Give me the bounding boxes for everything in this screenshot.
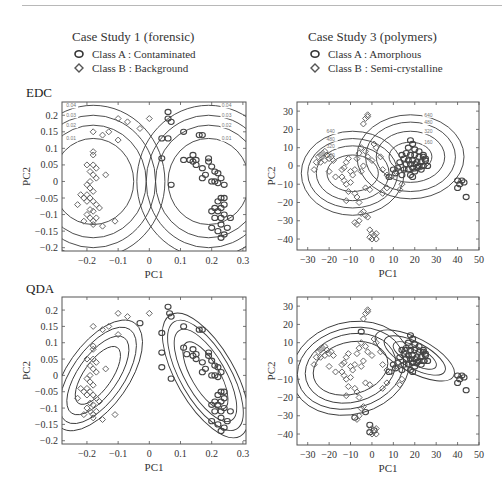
y-tick-label: 0.2 <box>46 305 59 316</box>
diamond-marker <box>93 215 99 221</box>
diamond-marker <box>345 384 351 390</box>
circle-marker <box>199 166 205 171</box>
y-tick-label: 0 <box>288 355 293 366</box>
circle-marker <box>190 152 196 157</box>
x-tick-label: 0.1 <box>174 255 187 266</box>
contour-line-A-480 <box>366 122 456 191</box>
x-axis-label: PC1 <box>379 267 398 279</box>
diamond-marker <box>90 323 96 329</box>
circle-marker <box>168 376 174 381</box>
y-tick-label: −0.15 <box>35 419 58 430</box>
x-tick-label: 0.3 <box>237 448 250 459</box>
y-tick-label: 0 <box>288 160 293 171</box>
diamond-marker <box>380 362 386 368</box>
diamond-marker <box>84 182 90 188</box>
x-axis-label: PC1 <box>379 462 398 474</box>
x-tick-label: −10 <box>343 254 359 265</box>
contour-level-label: 0.01 <box>66 135 76 141</box>
x-tick-label: −10 <box>343 449 359 460</box>
plot-area: 0.010.020.030.040.010.020.030.04 <box>21 102 280 257</box>
x-tick-label: 30 <box>431 254 441 265</box>
y-tick-label: 30 <box>283 301 293 312</box>
y-axis-label: PC2 <box>265 167 277 186</box>
x-tick-label: 10 <box>388 254 398 265</box>
circle-marker <box>209 164 215 169</box>
plot-edc-polymers: 160320480640160320480640−30−20−100102030… <box>265 102 484 279</box>
diamond-marker <box>84 192 90 198</box>
diamond-marker <box>326 363 332 369</box>
y-axis-label: PC2 <box>20 361 32 380</box>
diamond-marker <box>90 382 96 388</box>
y-tick-label: −20 <box>277 197 293 208</box>
circle-marker <box>159 136 165 141</box>
y-axis-label: PC2 <box>20 167 32 186</box>
diamond-marker <box>84 392 90 398</box>
diamond-marker <box>84 405 90 411</box>
plot-area <box>281 307 469 437</box>
circle-marker <box>159 365 165 370</box>
y-tick-label: 0.2 <box>46 110 59 121</box>
contour-level-label: 480 <box>424 119 433 125</box>
diamond-marker <box>106 129 112 135</box>
circle-marker <box>215 229 221 234</box>
diamond-marker <box>87 379 93 385</box>
x-tick-label: −30 <box>300 254 316 265</box>
y-tick-label: 0 <box>53 176 58 187</box>
diamond-marker <box>84 385 90 391</box>
diamond-marker <box>87 169 93 175</box>
circle-marker <box>199 360 205 365</box>
x-tick-label: −30 <box>300 449 316 460</box>
figure-plots: 0.010.020.030.040.010.020.030.04−0.2−0.1… <box>0 0 503 492</box>
diamond-marker <box>115 332 121 338</box>
circle-marker <box>405 145 411 150</box>
diamond-marker <box>103 172 109 178</box>
y-tick-label: 0.1 <box>46 143 59 154</box>
contour-level-label: 0.03 <box>222 112 232 118</box>
diamond-marker <box>378 154 384 160</box>
y-tick-label: −0.05 <box>35 193 58 204</box>
contour-level-label: 0.04 <box>222 102 232 108</box>
y-tick-label: 0.15 <box>41 321 59 332</box>
y-tick-label: −40 <box>277 429 293 440</box>
diamond-marker <box>124 314 130 320</box>
y-tick-label: −40 <box>277 234 293 245</box>
diamond-marker <box>90 198 96 204</box>
contour-level-label: 0.02 <box>66 122 76 128</box>
circle-marker <box>463 388 469 393</box>
circle-marker <box>159 330 165 335</box>
y-tick-label: 0 <box>53 370 58 381</box>
circle-marker <box>206 156 212 161</box>
x-tick-label: 0.3 <box>237 255 250 266</box>
circle-marker <box>190 347 196 352</box>
x-tick-label: 0 <box>369 449 374 460</box>
plot-edc-forensic: 0.010.020.030.040.010.020.030.04−0.2−0.1… <box>20 102 280 280</box>
y-tick-label: 0.05 <box>41 159 59 170</box>
y-tick-label: −0.15 <box>35 226 58 237</box>
y-tick-label: 30 <box>283 106 293 117</box>
x-tick-label: 0.2 <box>205 255 218 266</box>
diamond-marker <box>84 212 90 218</box>
contour-line-B-3 <box>44 315 151 437</box>
diamond-marker <box>115 137 121 143</box>
circle-marker <box>218 176 224 181</box>
diamond-marker <box>81 389 87 395</box>
diamond-marker <box>146 116 152 122</box>
x-tick-label: −0.1 <box>109 448 127 459</box>
diamond-marker <box>87 195 93 201</box>
diamond-marker <box>87 372 93 378</box>
y-tick-label: 10 <box>283 337 293 348</box>
circle-marker <box>165 136 171 141</box>
x-tick-label: 20 <box>410 449 420 460</box>
diamond-marker <box>90 162 96 168</box>
circle-marker <box>159 350 165 355</box>
circle-marker <box>184 352 190 357</box>
contour-level-label: 0.04 <box>66 102 76 108</box>
diamond-marker <box>93 202 99 208</box>
plot-area: 160320480640160320480640 <box>301 112 469 242</box>
y-tick-label: 20 <box>283 124 293 135</box>
y-tick-label: −0.1 <box>40 403 58 414</box>
diamond-marker <box>81 195 87 201</box>
y-tick-label: −20 <box>277 392 293 403</box>
y-tick-label: 0.05 <box>41 354 59 365</box>
diamond-marker <box>333 174 339 180</box>
